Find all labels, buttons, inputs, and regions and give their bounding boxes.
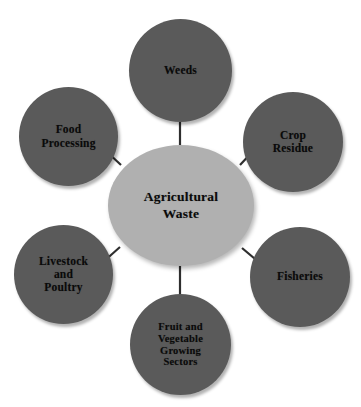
node-agricultural-waste-hub-label: Agricultural Waste <box>144 189 218 221</box>
node-weeds-label: Weeds <box>164 64 197 77</box>
node-fruit-vegetable-growing-sectors[interactable]: Fruit and Vegetable Growing Sectors <box>130 294 231 395</box>
diagram-canvas: Weeds Crop Residue Fisheries Fruit and V… <box>0 0 361 407</box>
node-livestock-and-poultry-label: Livestock and Poultry <box>39 255 88 294</box>
node-food-processing[interactable]: Food Processing <box>19 87 118 186</box>
node-agricultural-waste-hub[interactable]: Agricultural Waste <box>108 145 254 266</box>
node-fisheries[interactable]: Fisheries <box>250 227 350 327</box>
node-food-processing-label: Food Processing <box>41 123 95 149</box>
node-weeds[interactable]: Weeds <box>129 19 232 122</box>
node-crop-residue[interactable]: Crop Residue <box>243 92 343 192</box>
node-fisheries-label: Fisheries <box>277 270 323 283</box>
node-fruit-vegetable-growing-sectors-label: Fruit and Vegetable Growing Sectors <box>158 321 203 369</box>
node-crop-residue-label: Crop Residue <box>273 129 313 155</box>
node-livestock-and-poultry[interactable]: Livestock and Poultry <box>14 225 113 324</box>
